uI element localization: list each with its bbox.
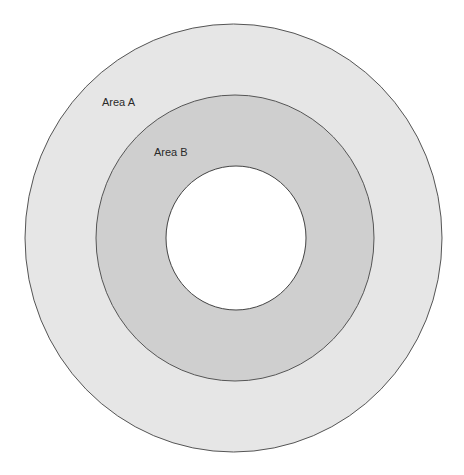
center-circle [166,166,306,310]
area-a-label: Area A [102,96,135,108]
area-b-label: Area B [154,146,188,158]
concentric-diagram [0,0,464,475]
